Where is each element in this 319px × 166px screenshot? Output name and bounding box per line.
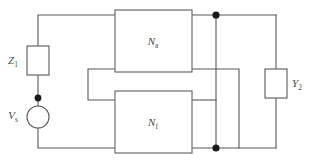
admittance-y2-label: Y2 <box>292 77 302 92</box>
admittance-y2-box <box>265 69 287 98</box>
junction-dot-amplifier-output <box>212 11 219 18</box>
circuit-schematic-canvas: Z1 Vs Y2 Na Nf <box>0 0 319 166</box>
circuit-diagram: Z1 Vs Y2 Na Nf <box>0 0 319 166</box>
junction-dot-bottom-rail <box>212 144 219 151</box>
wire-source-to-bottom-rail <box>38 128 115 148</box>
junction-dot-source-top <box>35 95 42 102</box>
admittance-y2-subscript: 2 <box>298 83 302 92</box>
voltage-source-label: Vs <box>8 109 18 124</box>
voltage-source-subscript: s <box>15 115 18 124</box>
voltage-source-symbol <box>27 106 49 128</box>
impedance-z1-subscript: 1 <box>14 60 18 69</box>
impedance-z1-label: Z1 <box>8 54 18 69</box>
wire-amplifier-feedback-left-link <box>88 69 115 100</box>
impedance-z1-box <box>27 46 49 75</box>
wire-z1-to-amplifier-input <box>38 15 115 46</box>
